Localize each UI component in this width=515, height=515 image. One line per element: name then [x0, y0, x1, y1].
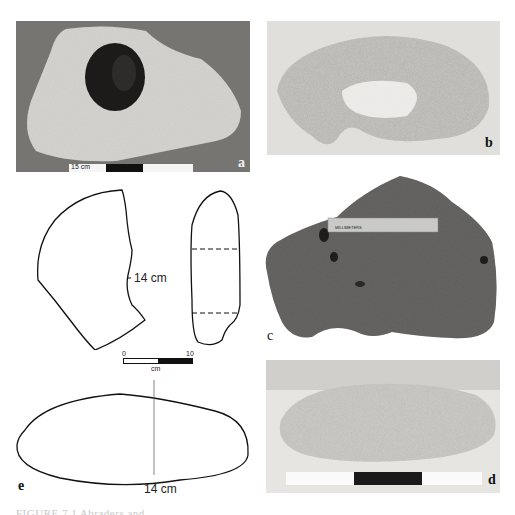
plan-dimension-label: 14 cm: [134, 271, 167, 285]
scale-unit-label: cm: [151, 365, 160, 372]
dark-porous-stone-image: [262, 172, 512, 350]
panel-e-drawing: e 14 cm: [0, 375, 260, 505]
scale-bar: [123, 358, 193, 364]
scale-min-label: 0: [122, 350, 126, 357]
oval-stone-image: [266, 360, 500, 493]
panel-d-label: d: [488, 472, 496, 488]
panel-a-label: a: [238, 155, 245, 171]
panel-a-scale-label: 15 cm: [71, 163, 90, 170]
panel-b-label: b: [485, 135, 493, 151]
porous-stone-fragment-image: [267, 21, 500, 155]
stone-slab-with-hole-image: [16, 21, 250, 172]
panel-a-photo: 15 cm a: [16, 21, 250, 172]
oval-outline-drawing: [0, 375, 260, 500]
panel-e-label: e: [18, 478, 24, 494]
panel-d-photo: d: [266, 360, 500, 493]
plan-outline-drawing: [20, 180, 260, 350]
scale-max-label: 10: [186, 350, 194, 357]
panel-c-label: c: [267, 328, 273, 344]
panel-b-photo: b: [267, 21, 500, 155]
ruler-label: MILLIMETERS: [335, 225, 362, 230]
panel-c-photo: MILLIMETERS c: [262, 172, 512, 350]
drawing-plan-and-section: 14 cm 0 10 cm: [20, 180, 260, 380]
panel-e-dimension-label: 14 cm: [144, 482, 177, 496]
figure-caption-truncated: FIGURE 7.1 Abraders and ...: [16, 507, 158, 515]
